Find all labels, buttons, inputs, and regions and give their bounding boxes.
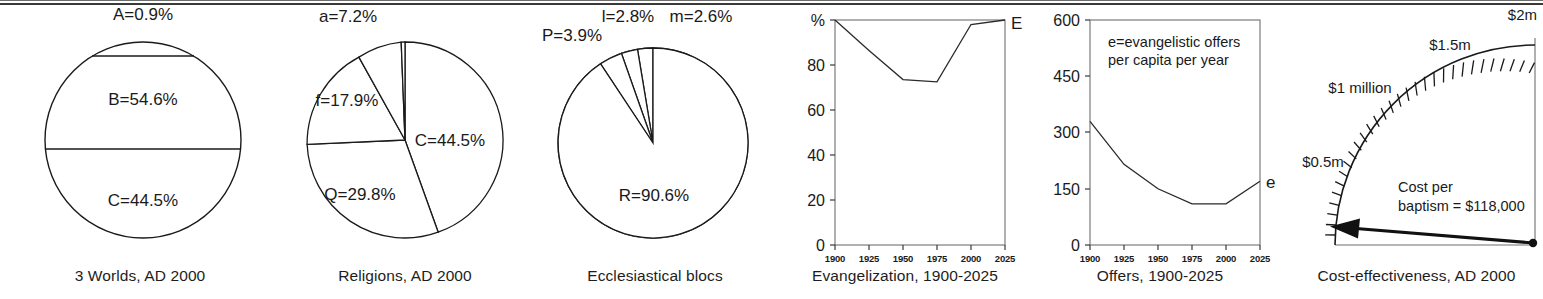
xlabel-1975: 1975 [927, 253, 948, 264]
ylabel-80: 80 [807, 57, 825, 74]
ylabel-0: 0 [816, 237, 825, 254]
slice-r [558, 48, 748, 238]
xlabel-2025: 2025 [995, 253, 1016, 264]
caption-three-worlds: 3 Worlds, AD 2000 [0, 267, 280, 285]
chart-religions: a=7.2% f=17.9% Q=29.8% C=44.5% [280, 0, 530, 270]
label-slice-a: a=7.2% [319, 7, 377, 26]
xlabel-1900: 1900 [1080, 253, 1100, 264]
series-label-e: e [1266, 173, 1275, 192]
caption-cost-effectiveness: Cost-effectiveness, AD 2000 [1290, 267, 1543, 285]
xlabel-1975: 1975 [1182, 253, 1203, 264]
label-segment-b: B=54.6% [108, 90, 177, 109]
figure-sheet: A=0.9% B=54.6% C=44.5% 3 Worlds, AD 2000… [0, 0, 1543, 299]
label-segment-c: C=44.5% [108, 191, 178, 210]
gauge-label-2m: $2m [1508, 6, 1537, 23]
label-slice-r: R=90.6% [619, 186, 689, 205]
annotation-line-1: e=evangelistic offers [1108, 34, 1240, 50]
xlabel-2000: 2000 [1216, 253, 1236, 264]
xlabel-1950: 1950 [1148, 253, 1168, 264]
label-slice-p: P=3.9% [542, 26, 602, 45]
label-slice-c: C=44.5% [415, 131, 485, 150]
ylabel-450: 450 [1053, 68, 1080, 85]
plot-frame [835, 20, 1005, 245]
label-slice-m: m=2.6% [670, 7, 733, 26]
gauge-label-0-5m: $0.5m [1302, 153, 1344, 170]
series-label-e: E [1011, 14, 1022, 33]
label-segment-a: A=0.9% [113, 5, 173, 24]
chart-cost-effectiveness: $2m $1.5m $1 million $0.5m Cost per bapt… [1290, 0, 1543, 270]
xlabel-1925: 1925 [859, 253, 880, 264]
annotation-line-2: per capita per year [1108, 52, 1229, 68]
caption-offers: Offers, 1900-2025 [1030, 267, 1290, 285]
chart-evangelization: % 80 60 40 20 0 E 1900 1925 1950 1975 20… [780, 0, 1030, 270]
value-label-line-2: baptism = $118,000 [1398, 198, 1525, 214]
chart-ecclesiastical-blocs: P=3.9% l=2.8% m=2.6% R=90.6% [530, 0, 780, 270]
panel-evangelization: % 80 60 40 20 0 E 1900 1925 1950 1975 20… [780, 0, 1030, 299]
label-slice-l: l=2.8% [602, 7, 654, 26]
ylabel-60: 60 [807, 102, 825, 119]
caption-evangelization: Evangelization, 1900-2025 [780, 267, 1030, 285]
chart-offers: 600 450 300 150 0 e=evangelistic offers … [1030, 0, 1290, 270]
ylabel-300: 300 [1053, 124, 1080, 141]
xlabel-2000: 2000 [961, 253, 981, 264]
ylabel-600: 600 [1053, 12, 1080, 29]
ylabel-150: 150 [1053, 181, 1080, 198]
panel-ecclesiastical-blocs: P=3.9% l=2.8% m=2.6% R=90.6% Ecclesiasti… [530, 0, 780, 299]
chart-three-worlds: A=0.9% B=54.6% C=44.5% [0, 0, 280, 270]
gauge-needle [1330, 219, 1537, 248]
panel-three-worlds: A=0.9% B=54.6% C=44.5% 3 Worlds, AD 2000 [0, 0, 280, 299]
caption-religions: Religions, AD 2000 [280, 267, 530, 285]
xlabel-1950: 1950 [893, 253, 913, 264]
panel-offers: 600 450 300 150 0 e=evangelistic offers … [1030, 0, 1290, 299]
gauge-arc [1335, 45, 1535, 245]
xlabel-2025: 2025 [1250, 253, 1271, 264]
ylabel-percent: % [811, 12, 825, 29]
value-label-line-1: Cost per [1398, 179, 1453, 195]
gauge-label-1-million: $1 million [1328, 79, 1391, 96]
label-slice-q: Q=29.8% [324, 185, 395, 204]
ylabel-40: 40 [807, 147, 825, 164]
ylabel-20: 20 [807, 192, 825, 209]
ylabel-0: 0 [1071, 237, 1080, 254]
xlabel-1925: 1925 [1114, 253, 1135, 264]
panel-cost-effectiveness: $2m $1.5m $1 million $0.5m Cost per bapt… [1290, 0, 1543, 299]
label-slice-f: f=17.9% [316, 91, 379, 110]
gauge-label-1-5m: $1.5m [1429, 36, 1471, 53]
xlabel-1900: 1900 [825, 253, 845, 264]
caption-ecclesiastical-blocs: Ecclesiastical blocs [530, 267, 780, 285]
panel-religions: a=7.2% f=17.9% Q=29.8% C=44.5% Religions… [280, 0, 530, 299]
